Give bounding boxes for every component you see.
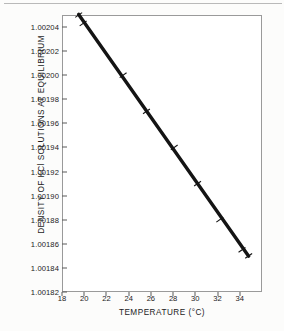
chart-figure: 1.001821.001841.001861.001881.001901.001… [0, 0, 284, 331]
figure-page: 1.001821.001841.001861.001881.001901.001… [0, 0, 284, 331]
trend-line [79, 14, 249, 256]
data-series-group [75, 13, 252, 259]
y-axis-title: DENSITY OF KCl SOLUTIONS AT EQUILIBRIUM [37, 10, 46, 260]
x-axis-title: TEMPERATURE (°C) [62, 308, 262, 317]
